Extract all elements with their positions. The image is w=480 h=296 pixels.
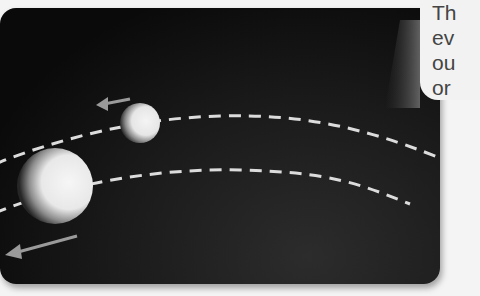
callout-line: ou [432, 50, 457, 75]
near-motion-arrow [96, 97, 130, 111]
orbit-scene [0, 8, 440, 284]
diagram-panel [0, 8, 440, 284]
callout-pointer-shading [385, 20, 420, 108]
far-sphere [17, 148, 93, 224]
callout-line: Th [432, 0, 457, 25]
callout-line: ev [432, 25, 457, 50]
far-motion-arrow [5, 236, 77, 259]
callout-line: or [432, 75, 457, 100]
near-sphere [120, 103, 160, 143]
callout-text: Th ev ou or [432, 0, 457, 100]
